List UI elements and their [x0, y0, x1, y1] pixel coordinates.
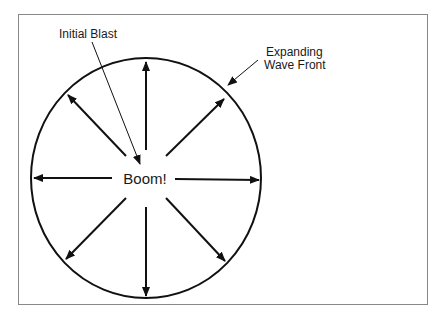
initial-blast-label: Initial Blast	[59, 27, 118, 41]
wave-front-label-line1: Expanding	[266, 45, 323, 59]
arrow-right-icon	[175, 179, 259, 180]
blast-diagram: Initial Blast Expanding Wave Front Boom!	[0, 0, 446, 323]
arrow-up-left-icon	[68, 95, 126, 156]
frame-border	[19, 15, 428, 305]
arrow-up-right-icon	[166, 99, 224, 156]
wave-front-label-line2: Wave Front	[264, 58, 326, 72]
arrow-down-right-icon	[166, 198, 225, 261]
center-boom-label: Boom!	[123, 170, 166, 187]
wave-front-pointer-icon	[228, 60, 258, 85]
arrow-down-left-icon	[66, 198, 126, 259]
